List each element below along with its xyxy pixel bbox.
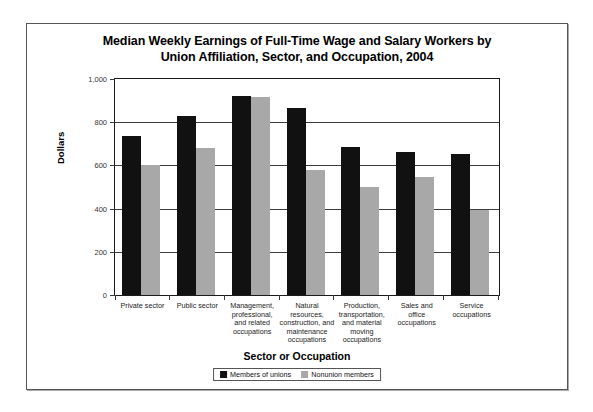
chart-title: Median Weekly Earnings of Full-Time Wage… (27, 33, 567, 65)
x-axis-tick-mark (333, 295, 334, 300)
x-axis-tick-label-line: occupations (328, 336, 395, 345)
legend-item[interactable]: Nonunion members (301, 370, 374, 379)
x-axis-tick-label-line: occupations (438, 311, 505, 320)
y-axis-tick-label: 600 (94, 161, 107, 170)
x-axis-title: Sector or Occupation (27, 350, 567, 362)
bar[interactable] (232, 96, 251, 295)
bar[interactable] (141, 165, 160, 295)
chart-legend: Members of unionsNonunion members (213, 368, 381, 381)
bar[interactable] (360, 187, 379, 295)
x-axis-tick-mark (224, 295, 225, 300)
x-axis-tick-mark (115, 295, 116, 300)
bar[interactable] (251, 97, 270, 295)
y-axis-tick-label: 200 (94, 247, 107, 256)
legend-swatch (301, 371, 308, 378)
bar[interactable] (341, 147, 360, 295)
bar[interactable] (451, 154, 470, 295)
x-axis-tick-label-line: occupations (383, 319, 450, 328)
bar[interactable] (396, 152, 415, 295)
bar[interactable] (415, 177, 434, 295)
y-axis-tick-label: 400 (94, 204, 107, 213)
y-axis-tick-label: 0 (103, 291, 107, 300)
legend-item[interactable]: Members of unions (220, 370, 291, 379)
x-axis-tick-label: Serviceoccupations (438, 302, 505, 319)
bar[interactable] (122, 136, 141, 295)
legend-label: Members of unions (230, 370, 291, 379)
chart-title-line-2: Union Affiliation, Sector, and Occupatio… (27, 49, 567, 65)
x-axis-tick-mark (443, 295, 444, 300)
x-axis-tick-mark (498, 295, 499, 300)
bar-group: Production,transportation,and materialmo… (334, 79, 389, 295)
chart-container: Median Weekly Earnings of Full-Time Wage… (26, 23, 568, 390)
bar[interactable] (470, 210, 489, 295)
legend-label: Nonunion members (311, 370, 374, 379)
bar-group: Private sector (115, 79, 170, 295)
x-axis-tick-mark (388, 295, 389, 300)
x-axis-tick-mark (169, 295, 170, 300)
bar-group: Public sector (170, 79, 225, 295)
y-axis-title: Dollars (55, 132, 66, 164)
bar[interactable] (177, 116, 196, 295)
bar-group: Sales andofficeoccupations (389, 79, 444, 295)
bar-group: Naturalresources,construction, andmainte… (280, 79, 335, 295)
plot-area: 1,0008006004002000Private sectorPublic s… (114, 78, 500, 296)
y-axis-tick-label: 1,000 (88, 75, 107, 84)
bar[interactable] (287, 108, 306, 295)
y-axis-tick-label: 800 (94, 118, 107, 127)
bar-group: Management,professional,and relatedoccup… (225, 79, 280, 295)
legend-swatch (220, 371, 227, 378)
bar[interactable] (196, 148, 215, 295)
chart-title-line-1: Median Weekly Earnings of Full-Time Wage… (27, 33, 567, 49)
bar[interactable] (306, 170, 325, 295)
x-axis-tick-mark (279, 295, 280, 300)
bar-group: Serviceoccupations (444, 79, 499, 295)
